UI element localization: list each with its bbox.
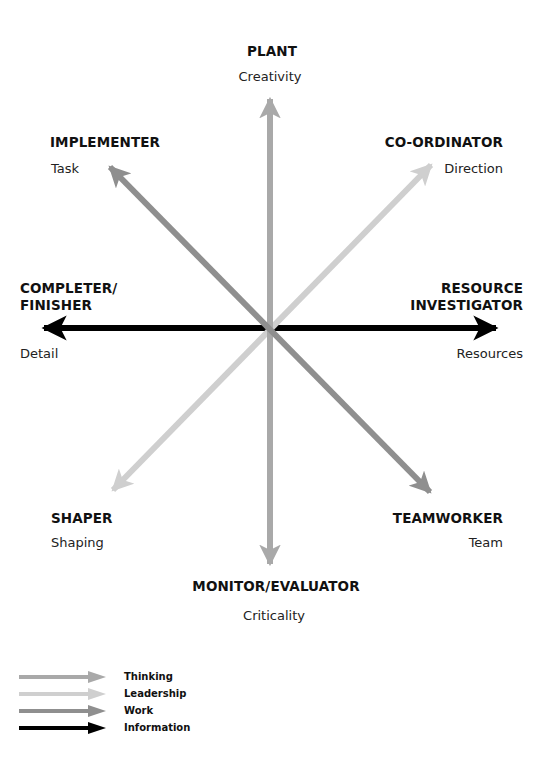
trait-direction: Direction (444, 161, 503, 177)
legend-label: Leadership (124, 686, 186, 702)
legend-arrow-icon (18, 703, 108, 719)
role-plant: PLANT (247, 43, 297, 60)
role-resource-investigator-line2: INVESTIGATOR (410, 297, 523, 314)
legend-item-work: Work (18, 703, 218, 719)
role-resource-investigator: RESOURCE INVESTIGATOR (410, 280, 523, 314)
legend-item-leadership: Leadership (18, 686, 218, 702)
trait-resources: Resources (457, 346, 523, 362)
legend-item-information: Information (18, 720, 218, 736)
legend-arrow-icon (18, 720, 108, 736)
role-shaper: SHAPER (51, 510, 113, 527)
role-teamworker: TEAMWORKER (393, 510, 503, 527)
role-monitor-evaluator: MONITOR/EVALUATOR (192, 578, 359, 595)
trait-shaping: Shaping (51, 535, 104, 551)
legend-arrow-icon (18, 686, 108, 702)
team-roles-diagram: PLANT Creativity IMPLEMENTER Task CO-ORD… (0, 0, 554, 775)
legend-label: Information (124, 720, 190, 736)
legend-label: Thinking (124, 669, 173, 685)
arrow-layer (0, 0, 554, 775)
role-coordinator: CO-ORDINATOR (385, 134, 503, 151)
legend-label: Work (124, 703, 153, 719)
role-completer-finisher-line2: FINISHER (20, 297, 117, 314)
role-completer-finisher: COMPLETER/ FINISHER (20, 280, 117, 314)
trait-team: Team (469, 535, 503, 551)
role-resource-investigator-line1: RESOURCE (410, 280, 523, 297)
legend-arrow-icon (18, 669, 108, 685)
role-implementer: IMPLEMENTER (50, 134, 160, 151)
trait-task: Task (51, 161, 79, 177)
legend-item-thinking: Thinking (18, 669, 218, 685)
trait-detail: Detail (20, 346, 58, 362)
trait-criticality: Criticality (243, 608, 305, 624)
role-completer-finisher-line1: COMPLETER/ (20, 280, 117, 297)
trait-creativity: Creativity (239, 69, 302, 85)
